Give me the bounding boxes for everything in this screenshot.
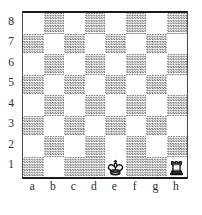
square-f3[interactable] — [126, 116, 147, 137]
rank-label-7: 7 — [2, 32, 20, 53]
file-label-d: d — [84, 178, 105, 196]
square-c4[interactable] — [64, 95, 85, 116]
square-c7[interactable] — [64, 34, 85, 55]
square-e3[interactable] — [105, 116, 126, 137]
square-a8[interactable] — [23, 13, 44, 34]
square-c1[interactable] — [64, 157, 85, 178]
chess-diagram: 8 7 6 5 4 3 2 1 — [0, 0, 202, 215]
square-f5[interactable] — [126, 75, 147, 96]
square-e1[interactable] — [105, 157, 126, 178]
square-d5[interactable] — [85, 75, 106, 96]
square-e4[interactable] — [105, 95, 126, 116]
square-h2[interactable] — [167, 136, 188, 157]
square-d2[interactable] — [85, 136, 106, 157]
square-b3[interactable] — [44, 116, 65, 137]
square-e8[interactable] — [105, 13, 126, 34]
rank-labels: 8 7 6 5 4 3 2 1 — [2, 11, 20, 175]
square-b2[interactable] — [44, 136, 65, 157]
square-b1[interactable] — [44, 157, 65, 178]
square-b7[interactable] — [44, 34, 65, 55]
square-g2[interactable] — [146, 136, 167, 157]
square-f7[interactable] — [126, 34, 147, 55]
square-a6[interactable] — [23, 54, 44, 75]
square-b6[interactable] — [44, 54, 65, 75]
file-labels: a b c d e f g h — [22, 178, 186, 196]
square-c8[interactable] — [64, 13, 85, 34]
file-label-c: c — [63, 178, 84, 196]
square-a7[interactable] — [23, 34, 44, 55]
file-label-h: h — [166, 178, 187, 196]
chess-board — [23, 13, 187, 177]
square-e6[interactable] — [105, 54, 126, 75]
square-a3[interactable] — [23, 116, 44, 137]
square-d6[interactable] — [85, 54, 106, 75]
file-label-e: e — [104, 178, 125, 196]
square-g1[interactable] — [146, 157, 167, 178]
square-a5[interactable] — [23, 75, 44, 96]
square-g3[interactable] — [146, 116, 167, 137]
square-f8[interactable] — [126, 13, 147, 34]
square-f6[interactable] — [126, 54, 147, 75]
square-a1[interactable] — [23, 157, 44, 178]
file-label-g: g — [145, 178, 166, 196]
square-g4[interactable] — [146, 95, 167, 116]
square-d3[interactable] — [85, 116, 106, 137]
square-f1[interactable] — [126, 157, 147, 178]
square-e7[interactable] — [105, 34, 126, 55]
square-a2[interactable] — [23, 136, 44, 157]
file-label-f: f — [125, 178, 146, 196]
rank-label-1: 1 — [2, 155, 20, 176]
square-b4[interactable] — [44, 95, 65, 116]
square-d7[interactable] — [85, 34, 106, 55]
square-a4[interactable] — [23, 95, 44, 116]
square-c6[interactable] — [64, 54, 85, 75]
white-rook-icon — [167, 157, 188, 178]
file-label-a: a — [22, 178, 43, 196]
square-g8[interactable] — [146, 13, 167, 34]
file-label-b: b — [43, 178, 64, 196]
rank-label-8: 8 — [2, 11, 20, 32]
white-king-icon — [105, 157, 126, 178]
rank-label-3: 3 — [2, 114, 20, 135]
square-d4[interactable] — [85, 95, 106, 116]
square-h4[interactable] — [167, 95, 188, 116]
square-g6[interactable] — [146, 54, 167, 75]
rank-label-2: 2 — [2, 134, 20, 155]
square-h8[interactable] — [167, 13, 188, 34]
square-h6[interactable] — [167, 54, 188, 75]
square-f4[interactable] — [126, 95, 147, 116]
square-d8[interactable] — [85, 13, 106, 34]
square-b8[interactable] — [44, 13, 65, 34]
square-g5[interactable] — [146, 75, 167, 96]
rank-label-6: 6 — [2, 52, 20, 73]
square-h7[interactable] — [167, 34, 188, 55]
square-e2[interactable] — [105, 136, 126, 157]
square-e5[interactable] — [105, 75, 126, 96]
square-h5[interactable] — [167, 75, 188, 96]
square-h1[interactable] — [167, 157, 188, 178]
square-f2[interactable] — [126, 136, 147, 157]
square-d1[interactable] — [85, 157, 106, 178]
board-frame — [22, 11, 188, 179]
square-c3[interactable] — [64, 116, 85, 137]
square-c5[interactable] — [64, 75, 85, 96]
rank-label-4: 4 — [2, 93, 20, 114]
rank-label-5: 5 — [2, 73, 20, 94]
square-c2[interactable] — [64, 136, 85, 157]
square-b5[interactable] — [44, 75, 65, 96]
square-h3[interactable] — [167, 116, 188, 137]
square-g7[interactable] — [146, 34, 167, 55]
